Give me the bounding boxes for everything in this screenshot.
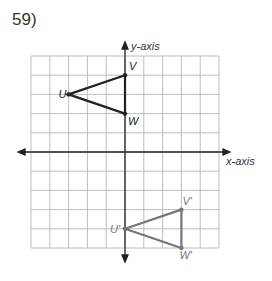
point-u: [66, 92, 70, 96]
point-label: U: [59, 88, 67, 100]
point-u-prime: [123, 227, 127, 231]
y-axis-label: y-axis: [130, 40, 160, 52]
x-axis-left-arrow-icon: [18, 149, 25, 155]
triangle-uvw: UVW: [59, 60, 140, 126]
y-axis-up-arrow-icon: [122, 42, 128, 49]
point-label: W': [179, 249, 192, 261]
point-label: W: [128, 115, 140, 127]
point-w: [123, 111, 127, 115]
y-axis-down-arrow-icon: [122, 255, 128, 262]
point-label: U': [110, 223, 121, 235]
point-label: V: [129, 60, 138, 72]
x-axis-label: x-axis: [225, 155, 255, 167]
point-label: V': [182, 195, 192, 207]
point-v-prime: [179, 207, 183, 211]
triangle-uvw-image: U'V'W': [110, 195, 193, 261]
coordinate-plane: y-axis x-axis UVW U'V'W': [0, 0, 272, 281]
point-v: [123, 73, 127, 77]
